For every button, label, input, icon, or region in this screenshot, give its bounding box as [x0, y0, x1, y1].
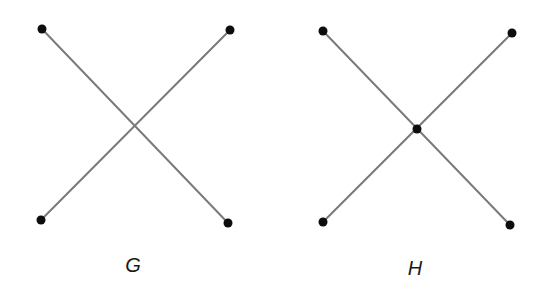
- graph-h: [319, 27, 517, 230]
- vertex: [38, 25, 47, 34]
- vertex: [413, 125, 422, 134]
- vertex: [319, 218, 328, 227]
- graph-g-label: G: [125, 255, 141, 275]
- vertex: [506, 221, 515, 230]
- vertex: [508, 29, 517, 38]
- graph-g: [37, 25, 235, 228]
- vertex: [224, 219, 233, 228]
- graph-diagram: [0, 0, 541, 287]
- graph-h-label: H: [408, 258, 422, 278]
- vertex: [37, 216, 46, 225]
- vertex: [319, 27, 328, 36]
- vertex: [226, 26, 235, 35]
